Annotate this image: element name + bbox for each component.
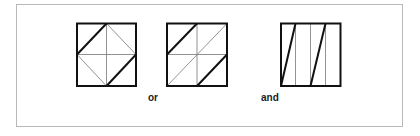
thick-corner-diagonal: [167, 24, 197, 55]
square-diamond: [77, 23, 136, 86]
label-or: or: [148, 92, 158, 103]
thick-slanted-line: [311, 24, 326, 87]
square-stripes: [281, 23, 341, 86]
thick-diamond-edge: [77, 24, 107, 55]
figure-canvas: [0, 0, 420, 136]
thin-diamond-edge: [107, 24, 137, 55]
thick-slanted-line: [281, 24, 296, 87]
square-diagonal: [167, 23, 227, 86]
thick-corner-diagonal: [197, 55, 227, 87]
label-and: and: [261, 92, 279, 103]
thick-diamond-edge: [107, 55, 137, 87]
thin-diamond-edge: [77, 55, 107, 87]
